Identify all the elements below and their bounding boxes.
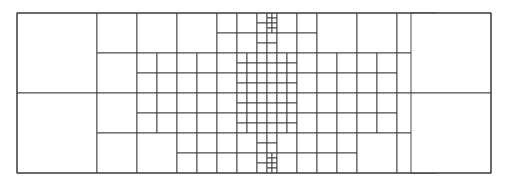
mesh-cell (257, 43, 267, 53)
mesh-cell (137, 93, 157, 113)
mesh-cell (177, 133, 197, 153)
mesh-cell (357, 93, 377, 113)
mesh-cell (177, 93, 197, 113)
mesh-cell (267, 163, 272, 168)
mesh-cell (237, 83, 247, 93)
mesh-cell (357, 73, 377, 93)
mesh-cell (277, 83, 287, 93)
mesh-cell (247, 53, 257, 63)
mesh-cell (277, 13, 297, 33)
mesh-cell (267, 43, 277, 53)
mesh-cell (267, 18, 272, 23)
mesh-cell-group (17, 13, 491, 173)
mesh-cell (247, 83, 257, 93)
mesh-cell (257, 113, 267, 123)
mesh-cell (317, 13, 357, 53)
mesh-cell (317, 53, 337, 73)
mesh-cell (97, 53, 137, 93)
mesh-cell (217, 13, 237, 33)
mesh-cell (217, 33, 237, 53)
mesh-cell (97, 133, 137, 173)
mesh-cell (272, 153, 277, 158)
mesh-cell (257, 23, 267, 33)
mesh-cell (277, 153, 297, 173)
mesh-cell (357, 133, 397, 173)
mesh-cell (297, 73, 317, 93)
mesh-cell (411, 13, 491, 93)
mesh-cell (277, 113, 287, 123)
mesh-cell (217, 113, 237, 133)
mesh-cell (267, 63, 277, 73)
mesh-cell (272, 28, 277, 33)
mesh-cell (217, 153, 237, 173)
mesh-cell (297, 33, 317, 53)
mesh-cell (197, 113, 217, 133)
mesh-cell (337, 133, 357, 153)
mesh-cell (267, 168, 272, 173)
mesh-cell (272, 23, 277, 28)
mesh-cell (272, 13, 277, 18)
mesh-cell (217, 93, 237, 113)
mesh-cell (297, 53, 317, 73)
mesh-cell (337, 113, 357, 133)
mesh-cell (277, 73, 287, 83)
mesh-cell (217, 133, 237, 153)
mesh-cell (247, 73, 257, 83)
mesh-cell (237, 33, 257, 53)
mesh-cell (277, 133, 297, 153)
mesh-cell (157, 53, 177, 73)
mesh-cell (257, 33, 267, 43)
mesh-cell (267, 123, 277, 133)
mesh-cell (137, 133, 177, 173)
mesh-cell (257, 73, 267, 83)
mesh-cell (287, 103, 297, 113)
mesh-cell (267, 13, 272, 18)
mesh-cell (287, 123, 297, 133)
mesh-cell (317, 73, 337, 93)
mesh-cell (257, 13, 267, 23)
mesh-cell (247, 93, 257, 103)
mesh-cell (297, 153, 317, 173)
mesh-cell (267, 23, 272, 28)
mesh-cell (357, 113, 377, 133)
mesh-cell (377, 93, 397, 113)
mesh-cell (267, 53, 277, 63)
mesh-cell (247, 123, 257, 133)
mesh-cell (277, 93, 287, 103)
mesh-cell (137, 113, 157, 133)
mesh-cell (272, 18, 277, 23)
mesh-cell (97, 93, 137, 133)
mesh-cell (337, 73, 357, 93)
mesh-cell (267, 143, 277, 153)
mesh-cell (257, 53, 267, 63)
mesh-cell (217, 53, 237, 73)
mesh-cell (272, 163, 277, 168)
mesh-cell (17, 13, 97, 93)
mesh-cell (247, 63, 257, 73)
mesh-cell (277, 33, 297, 53)
mesh-cell (267, 33, 277, 43)
mesh-cell (267, 28, 272, 33)
mesh-cell (277, 103, 287, 113)
mesh-cell (197, 153, 217, 173)
mesh-cell (257, 63, 267, 73)
mesh-cell (257, 163, 267, 173)
mesh-cell (237, 73, 247, 83)
mesh-cell (337, 53, 357, 73)
mesh-cell (257, 133, 267, 143)
mesh-cell (272, 168, 277, 173)
mesh-cell (257, 83, 267, 93)
mesh-cell (257, 153, 267, 163)
mesh-cell (337, 153, 357, 173)
mesh-cell (317, 153, 337, 173)
mesh-cell (277, 53, 287, 63)
mesh-cell (287, 63, 297, 73)
mesh-cell (137, 13, 177, 53)
mesh-cell (237, 13, 257, 33)
mesh-cell (247, 103, 257, 113)
mesh-cell (267, 158, 272, 163)
mesh-cell (237, 123, 247, 133)
mesh-cell (157, 113, 177, 133)
mesh-cell (237, 133, 257, 153)
mesh-cell (267, 103, 277, 113)
